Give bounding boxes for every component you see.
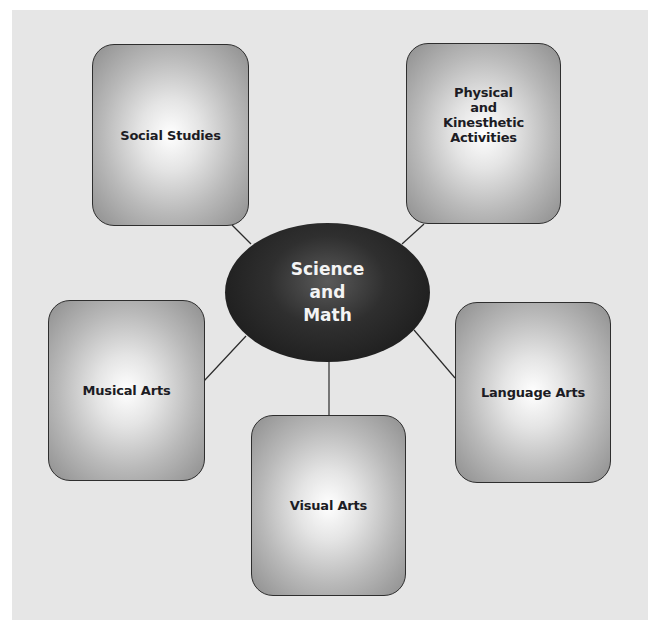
center-node-science-math: Science and Math: [225, 223, 430, 362]
edge-physical: [402, 224, 424, 244]
node-label: Social Studies: [120, 128, 221, 143]
edge-musical-arts: [204, 336, 246, 381]
node-visual-arts: Visual Arts: [251, 415, 406, 596]
node-label: Language Arts: [481, 385, 585, 400]
node-musical-arts: Musical Arts: [48, 300, 205, 481]
edge-language-arts: [414, 330, 455, 378]
edge-social-studies: [232, 225, 251, 244]
node-physical-kinesthetic: Physical and Kinesthetic Activities: [406, 43, 561, 224]
node-label: Visual Arts: [290, 498, 367, 513]
center-label: Science and Math: [291, 258, 364, 327]
node-social-studies: Social Studies: [92, 44, 249, 226]
node-label: Physical and Kinesthetic Activities: [443, 85, 524, 145]
node-label: Musical Arts: [83, 383, 171, 398]
node-language-arts: Language Arts: [455, 302, 611, 483]
